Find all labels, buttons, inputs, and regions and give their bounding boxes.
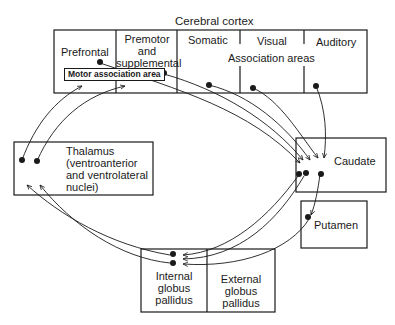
arrow-caudate-putamen (311, 174, 320, 215)
arrow-premotor-caudate (164, 74, 303, 160)
cortex-title: Cerebral cortex (175, 15, 254, 27)
thalamus-label: Thalamus (ventroanterior and ventrolater… (66, 145, 148, 193)
external-gp-label: External globus pallidus (207, 273, 275, 309)
association-areas-label: Association areas (228, 52, 315, 64)
thalamus-line3: and ventrolateral (66, 169, 148, 181)
internal-gp-label: Internal globus pallidus (141, 270, 207, 306)
internal-gp-line2: globus (141, 282, 207, 294)
thalamus-line2: (ventroanterior (66, 157, 148, 169)
region-premotor: Premotor and supplemental (116, 33, 178, 69)
region-auditory: Auditory (316, 36, 356, 48)
neuron-dots (19, 59, 324, 266)
putamen-label: Putamen (314, 219, 358, 231)
region-visual: Visual (257, 35, 287, 47)
region-somatic: Somatic (188, 34, 228, 46)
caudate-label: Caudate (334, 155, 376, 167)
region-premotor-line2: and (116, 45, 178, 57)
thalamus-line1: Thalamus (66, 145, 148, 157)
arrow-caudate-gp2 (183, 176, 304, 259)
external-gp-line1: External (207, 273, 275, 285)
arrow-auditory-caudate (316, 86, 325, 158)
internal-gp-line1: Internal (141, 270, 207, 282)
thalamus-line4: nuclei) (66, 181, 148, 193)
region-prefrontal: Prefrontal (61, 46, 109, 58)
external-gp-line2: globus (207, 285, 275, 297)
motor-association-area-label: Motor association area (64, 68, 165, 81)
arrow-somatic-caudate (209, 85, 310, 160)
arrow-putamen-gp (183, 219, 309, 265)
region-premotor-line1: Premotor (116, 33, 178, 45)
arrow-visual-caudate (253, 88, 318, 158)
internal-gp-line3: pallidus (141, 294, 207, 306)
external-gp-line3: pallidus (207, 297, 275, 309)
